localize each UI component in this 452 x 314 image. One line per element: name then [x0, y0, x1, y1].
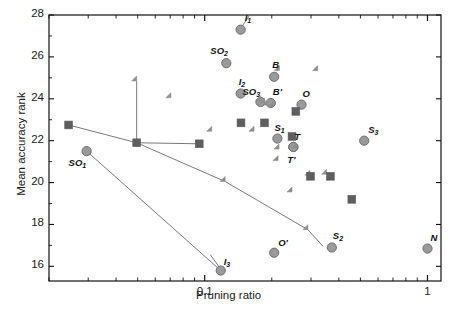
marker-circle-B — [270, 72, 279, 81]
marker-diamond-8 — [207, 126, 212, 131]
point-label-O: O — [303, 88, 310, 99]
point-label-S2: S2 — [333, 230, 343, 241]
point-label-N: N — [430, 232, 437, 243]
marker-diamond-16 — [287, 187, 292, 192]
y-tick-label-24: 24 — [20, 91, 44, 103]
marker-diamond-2 — [313, 66, 318, 71]
y-tick-label-18: 18 — [20, 216, 44, 228]
point-label-T: T — [294, 131, 300, 142]
marker-square-3 — [237, 119, 245, 127]
marker-square-5 — [292, 107, 300, 115]
series-line-so1-to-i3-line — [87, 151, 221, 270]
marker-square-7 — [307, 172, 315, 180]
point-label-SO3: SO3 — [242, 86, 260, 97]
y-tick-label-16: 16 — [20, 258, 44, 270]
point-label-SO2: SO2 — [210, 45, 228, 56]
marker-square-2 — [195, 140, 203, 148]
y-tick-label-22: 22 — [20, 133, 44, 145]
point-label-S1: S1 — [274, 122, 284, 133]
marker-circle-S3 — [360, 136, 369, 145]
point-label-B: B — [272, 59, 279, 70]
point-label-SO1: SO1 — [69, 157, 87, 168]
marker-circle-SO2 — [222, 59, 231, 68]
marker-square-8 — [326, 172, 334, 180]
marker-square-0 — [65, 121, 73, 129]
marker-diamond-0 — [132, 76, 137, 81]
point-label-I3: I3 — [224, 256, 231, 267]
chart-root: Mean accuracy rank Pruning ratio 1618202… — [0, 0, 452, 314]
marker-circle-I1 — [236, 25, 245, 34]
marker-circle-S2 — [327, 243, 336, 252]
marker-diamond-14 — [322, 169, 327, 174]
marker-circle-O — [270, 248, 279, 257]
point-label-B: B' — [273, 86, 282, 97]
plot-frame — [49, 15, 441, 281]
marker-square-4 — [261, 119, 269, 127]
x-tick-label-1: 1 — [412, 285, 442, 297]
marker-square-1 — [133, 139, 141, 147]
marker-square-9 — [348, 195, 356, 203]
point-label-I1: I1 — [245, 12, 252, 23]
point-label-S3: S3 — [368, 124, 378, 135]
marker-diamond-15 — [220, 177, 225, 182]
marker-circle-S1 — [273, 134, 282, 143]
point-label-O: O' — [278, 237, 288, 248]
marker-circle-SO1 — [82, 147, 91, 156]
point-label-I2: I2 — [239, 76, 246, 87]
marker-diamond-10 — [274, 144, 279, 149]
y-tick-label-26: 26 — [20, 49, 44, 61]
x-tick-label-0.1: 0.1 — [190, 285, 220, 297]
y-tick-label-20: 20 — [20, 175, 44, 187]
point-label-T: T' — [287, 154, 295, 165]
y-tick-label-28: 28 — [20, 7, 44, 19]
marker-diamond-9 — [249, 126, 254, 131]
marker-circle-N — [423, 244, 432, 253]
marker-circle-I3 — [216, 266, 225, 275]
marker-diamond-11 — [273, 156, 278, 161]
marker-diamond-1 — [166, 93, 171, 98]
